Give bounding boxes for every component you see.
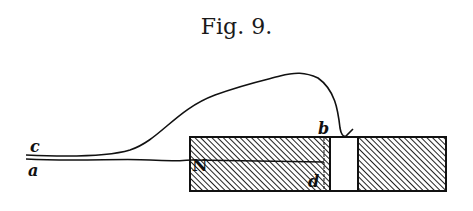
magnet-right-section [358,137,446,191]
label-a: a [28,161,38,180]
label-N: N [192,155,208,175]
label-c: c [30,137,40,156]
gap-slot [330,137,358,191]
label-d: d [308,172,319,191]
magnet-diagram: c a N b d [0,0,473,211]
label-b: b [318,119,329,138]
